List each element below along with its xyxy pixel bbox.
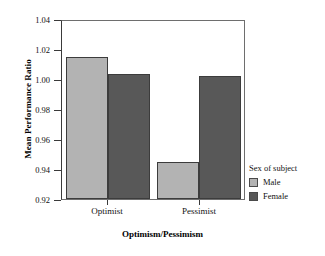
legend-label-male: Male <box>263 177 280 187</box>
y-axis-tick <box>54 140 61 141</box>
legend-title: Sex of subject <box>249 163 297 173</box>
legend-item-male: Male <box>249 177 297 187</box>
x-axis-tick-label: Optimist <box>62 206 152 216</box>
bar-pessimist-male <box>157 162 199 199</box>
x-axis-title: Optimism/Pessimism <box>0 229 325 239</box>
plot-area <box>61 20 245 200</box>
y-axis-tick <box>54 50 61 51</box>
x-axis-tick <box>107 200 108 205</box>
y-axis-tick <box>54 110 61 111</box>
x-axis-tick <box>199 200 200 205</box>
x-axis-tick-label: Pessimist <box>154 206 244 216</box>
y-axis-tick-label: 0.98 <box>10 105 50 115</box>
y-axis-tick-label: 1.04 <box>10 15 50 25</box>
bar-optimist-male <box>66 57 108 199</box>
bar-chart-figure: Mean Performance Ratio 1.04 1.02 1.00 0.… <box>0 0 325 256</box>
legend-label-female: Female <box>263 191 288 201</box>
y-axis-tick-label: 0.94 <box>10 165 50 175</box>
legend: Sex of subject Male Female <box>249 163 297 205</box>
y-axis-tick <box>54 200 61 201</box>
y-axis-tick <box>54 20 61 21</box>
bar-optimist-female <box>108 74 150 199</box>
y-axis-tick <box>54 80 61 81</box>
legend-swatch-male <box>249 178 258 187</box>
legend-item-female: Female <box>249 191 297 201</box>
y-axis-tick-label: 0.96 <box>10 135 50 145</box>
y-axis-tick-label: 0.92 <box>10 195 50 205</box>
legend-swatch-female <box>249 192 258 201</box>
bar-pessimist-female <box>199 76 241 199</box>
y-axis-tick <box>54 170 61 171</box>
y-axis-tick-label: 1.02 <box>10 45 50 55</box>
y-axis-tick-label: 1.00 <box>10 75 50 85</box>
